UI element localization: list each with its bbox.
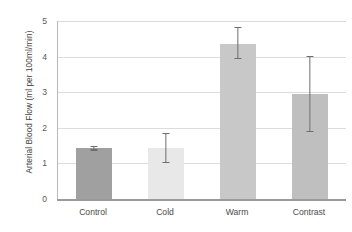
error-bar-cap-bottom — [163, 162, 170, 163]
y-tick-label-1: 1 — [30, 159, 47, 167]
bar-chart: Arterial Blood Flow (ml per 100ml/min) 0… — [0, 0, 352, 232]
error-bar-cap-top — [235, 27, 242, 28]
error-bar-cold — [162, 133, 170, 163]
x-tick-label-cold: Cold — [129, 207, 201, 218]
error-bar-cap-top — [307, 56, 314, 57]
y-tick-label-4: 4 — [30, 53, 47, 61]
x-tick-label-control: Control — [57, 207, 129, 218]
error-bar-control — [90, 146, 98, 151]
error-bar-cap-bottom — [91, 149, 98, 150]
plot-area — [57, 21, 346, 199]
error-bar-stem — [165, 133, 166, 163]
y-tick-label-3: 3 — [30, 88, 47, 96]
y-axis-tick-labels: 012345 — [30, 0, 47, 232]
error-bar-warm — [234, 27, 242, 59]
bar-control — [76, 148, 112, 199]
x-tick-label-contrast: Contrast — [273, 207, 345, 218]
gridline-y-4 — [58, 57, 346, 58]
error-bar-cap-top — [163, 133, 170, 134]
error-bar-contrast — [306, 56, 314, 132]
error-bar-stem — [237, 27, 238, 59]
error-bar-cap-top — [91, 146, 98, 147]
error-bar-stem — [309, 56, 310, 132]
error-bar-cap-bottom — [235, 58, 242, 59]
gridline-y-0 — [58, 199, 346, 201]
error-bar-cap-bottom — [307, 131, 314, 132]
bar-warm — [220, 44, 256, 199]
y-tick-label-0: 0 — [30, 195, 47, 203]
gridline-y-5 — [58, 21, 346, 22]
y-tick-label-2: 2 — [30, 124, 47, 132]
x-tick-label-warm: Warm — [201, 207, 273, 218]
y-tick-label-5: 5 — [30, 17, 47, 25]
